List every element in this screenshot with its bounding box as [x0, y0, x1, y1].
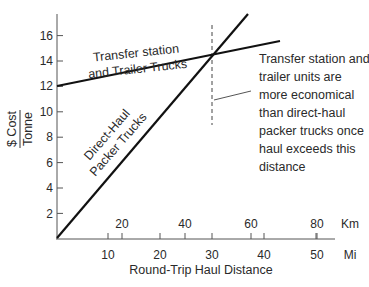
x-tick-km-80: 80	[310, 217, 324, 231]
x-tick-mi-40: 40	[257, 248, 271, 262]
y-tick-12: 12	[40, 79, 54, 93]
annotation-line: haul exceeds this	[259, 142, 356, 156]
y-tick-4: 4	[46, 181, 53, 195]
x-ticks-km	[122, 233, 316, 239]
x-tick-labels-km: 20 40 60 80 Km	[115, 217, 359, 231]
annotation-line: packer trucks once	[259, 124, 364, 138]
x-tick-km-60: 60	[244, 217, 258, 231]
y-tick-16: 16	[40, 29, 54, 43]
annotation-leader-line	[214, 91, 251, 100]
x-tick-km-40: 40	[178, 217, 192, 231]
x-tick-labels-mi: 10 20 30 40 50 Mi	[101, 248, 356, 262]
annotation-line: more economical	[259, 88, 354, 102]
x-axis-title: Round-Trip Haul Distance	[129, 263, 272, 277]
annotation-line: distance	[259, 160, 306, 174]
x-ticks-mi	[108, 233, 317, 239]
series-label-transfer-station: Transfer station and Trailer Trucks	[86, 41, 188, 81]
y-label-numerator: $ Cost	[5, 110, 19, 147]
x-unit-km: Km	[341, 217, 359, 231]
y-tick-6: 6	[46, 156, 53, 170]
y-tick-8: 8	[46, 130, 53, 144]
annotation-line: than direct-haul	[259, 106, 345, 120]
series-label-direct-haul: Direct-Haul Packer Trucks	[76, 100, 150, 179]
x-tick-mi-20: 20	[153, 248, 167, 262]
x-tick-mi-10: 10	[101, 248, 115, 262]
y-tick-labels: 2 4 6 8 10 12 14 16	[40, 29, 54, 221]
annotation-line: Transfer station and	[259, 52, 369, 66]
annotation-text: Transfer station and trailer units are m…	[259, 52, 369, 174]
x-tick-km-20: 20	[115, 217, 129, 231]
y-axis-label: $ Cost Tonne	[5, 110, 35, 148]
y-tick-2: 2	[46, 207, 53, 221]
y-tick-14: 14	[40, 54, 54, 68]
annotation-line: trailer units are	[259, 70, 342, 84]
y-tick-10: 10	[40, 105, 54, 119]
y-label-denominator: Tonne	[21, 112, 35, 146]
x-unit-mi: Mi	[344, 248, 357, 262]
cost-vs-haul-distance-chart: 2 4 6 8 10 12 14 16 $ Cost Tonne 10 20 3…	[0, 0, 369, 287]
x-tick-mi-50: 50	[310, 248, 324, 262]
x-tick-mi-30: 30	[205, 248, 219, 262]
y-ticks	[57, 36, 63, 214]
